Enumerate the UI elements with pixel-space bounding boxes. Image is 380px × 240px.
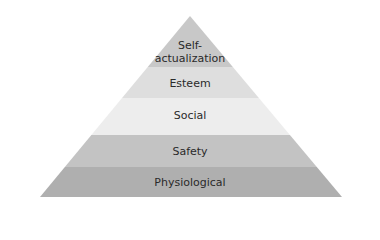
- level-label-self-actualization-line2: actualization: [0, 52, 380, 65]
- level-label-safety: Safety: [0, 145, 380, 158]
- level-label-esteem: Esteem: [0, 77, 380, 90]
- level-label-self-actualization-line1: Self-: [0, 39, 380, 52]
- level-label-social: Social: [0, 109, 380, 122]
- level-label-physiological: Physiological: [0, 176, 380, 189]
